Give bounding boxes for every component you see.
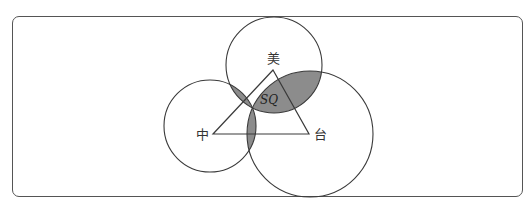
label-right: 台 [314,127,327,142]
label-top: 美 [267,51,280,66]
shaded-overlaps [226,17,373,197]
label-left: 中 [196,127,209,142]
venn-triangle-diagram: 美 中 台 SQ [0,0,531,213]
label-center: SQ [260,93,278,107]
circle-left [164,80,256,172]
